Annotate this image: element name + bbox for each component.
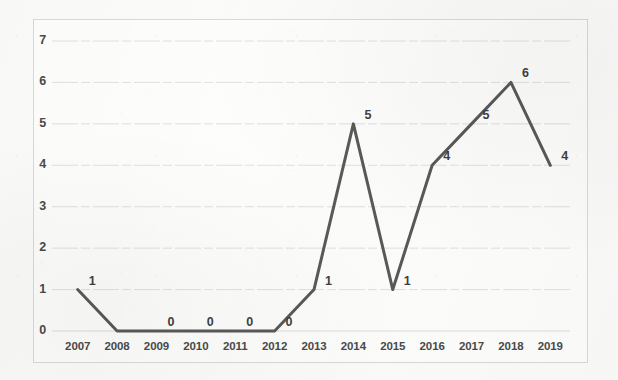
data-label-2007: 1 [89,274,96,288]
x-tick-label-2016: 2016 [410,340,454,352]
data-label-2013: 1 [325,274,332,288]
x-tick-label-2017: 2017 [450,340,494,352]
y-tick-label-5: 5 [28,116,46,130]
data-label-2017: 5 [483,108,490,122]
x-tick-label-2015: 2015 [371,340,415,352]
gridlines [52,41,570,331]
x-tick-label-2007: 2007 [56,340,100,352]
x-tick-label-2018: 2018 [489,340,533,352]
x-tick-label-2009: 2009 [134,340,178,352]
data-label-2010: 0 [207,315,214,329]
y-tick-label-3: 3 [28,199,46,213]
data-label-2018: 6 [522,66,529,80]
y-tick-label-1: 1 [28,282,46,296]
y-tick-label-7: 7 [28,33,46,47]
y-tick-label-0: 0 [28,323,46,337]
x-tick-label-2019: 2019 [528,340,572,352]
data-label-2016: 4 [443,149,450,163]
x-tick-label-2014: 2014 [331,340,375,352]
line-chart-plot [0,0,618,380]
data-label-2014: 5 [364,108,371,122]
y-tick-label-6: 6 [28,74,46,88]
x-tick-label-2008: 2008 [95,340,139,352]
x-tick-label-2013: 2013 [292,340,336,352]
data-label-2015: 1 [404,274,411,288]
data-label-2011: 0 [246,315,253,329]
data-label-2012: 0 [286,315,293,329]
y-tick-label-2: 2 [28,240,46,254]
x-tick-label-2012: 2012 [253,340,297,352]
chart-page: 01234567 2007200820092010201120122013201… [0,0,618,380]
x-tick-label-2011: 2011 [213,340,257,352]
y-tick-label-4: 4 [28,157,46,171]
x-tick-label-2010: 2010 [174,340,218,352]
data-label-2019: 4 [561,149,568,163]
data-label-2009: 0 [167,315,174,329]
